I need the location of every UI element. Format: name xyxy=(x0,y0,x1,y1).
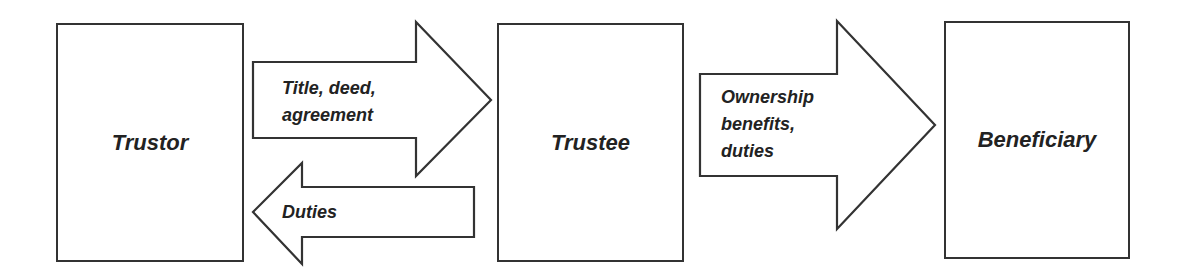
arrow-label-ownership-benefits-duties: Ownership benefits, duties xyxy=(721,84,814,165)
trustor-box: Trustor xyxy=(56,23,244,262)
arrow-label-title-deed-agreement: Title, deed, agreement xyxy=(282,75,376,129)
arrow-label-duties: Duties xyxy=(282,199,337,226)
beneficiary-box: Beneficiary xyxy=(944,21,1130,259)
trustee-label: Trustee xyxy=(551,130,630,156)
trustor-label: Trustor xyxy=(112,130,189,156)
beneficiary-label: Beneficiary xyxy=(978,127,1097,153)
trustee-box: Trustee xyxy=(497,23,684,262)
